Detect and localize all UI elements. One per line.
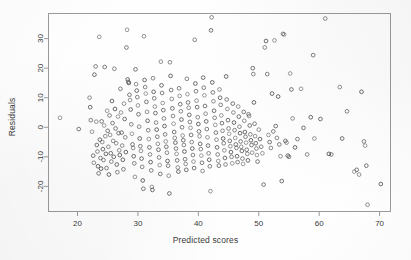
svg-text:-10: -10 bbox=[36, 150, 45, 162]
y-axis-title: Residuals bbox=[7, 82, 17, 152]
svg-text:40: 40 bbox=[194, 219, 203, 228]
svg-text:0: 0 bbox=[36, 125, 45, 130]
svg-text:10: 10 bbox=[36, 93, 45, 102]
svg-text:30: 30 bbox=[36, 34, 45, 43]
plot-frame bbox=[49, 14, 391, 212]
svg-text:20: 20 bbox=[36, 63, 45, 72]
svg-text:60: 60 bbox=[315, 219, 324, 228]
data-points bbox=[58, 15, 383, 206]
residual-plot-figure: 2030405060703020100-10-20 Predicted scor… bbox=[0, 0, 411, 260]
svg-text:50: 50 bbox=[254, 219, 263, 228]
axis-tick-labels: 2030405060703020100-10-20 bbox=[36, 34, 385, 228]
svg-text:30: 30 bbox=[133, 219, 142, 228]
svg-text:20: 20 bbox=[73, 219, 82, 228]
scatter-plot-canvas: 2030405060703020100-10-20 bbox=[0, 0, 411, 260]
svg-text:-20: -20 bbox=[36, 180, 45, 192]
x-axis-title: Predicted scores bbox=[0, 235, 411, 245]
svg-text:70: 70 bbox=[375, 219, 384, 228]
